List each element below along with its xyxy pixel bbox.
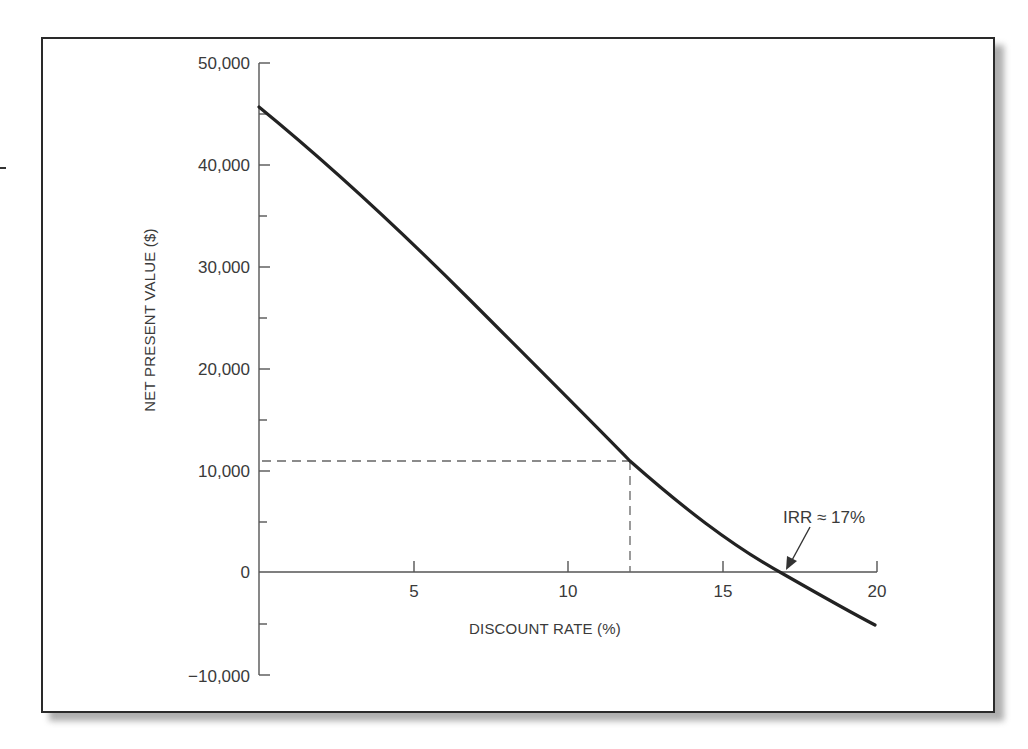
y-tick-40000: 40,000 bbox=[198, 156, 250, 175]
y-tick-50000: 50,000 bbox=[198, 54, 250, 73]
x-axis-title: DISCOUNT RATE (%) bbox=[469, 620, 621, 637]
npv-chart: IRR ≈ 17% 50,000 40,000 30,000 20,000 10… bbox=[0, 0, 1028, 749]
irr-annotation: IRR ≈ 17% bbox=[783, 508, 865, 527]
y-tick-neg10000: −10,000 bbox=[188, 667, 250, 686]
y-tick-labels: 50,000 40,000 30,000 20,000 10,000 0 −10… bbox=[188, 54, 250, 686]
x-tick-15: 15 bbox=[714, 582, 733, 601]
y-tick-0: 0 bbox=[241, 563, 250, 582]
x-tick-5: 5 bbox=[409, 582, 418, 601]
y-axis-title: NET PRESENT VALUE ($) bbox=[141, 228, 158, 411]
dashed-guides bbox=[262, 461, 630, 572]
y-tick-20000: 20,000 bbox=[198, 360, 250, 379]
x-tick-20: 20 bbox=[868, 582, 887, 601]
y-tick-10000: 10,000 bbox=[198, 462, 250, 481]
x-axis bbox=[259, 561, 877, 572]
y-tick-30000: 30,000 bbox=[198, 258, 250, 277]
irr-arrow bbox=[786, 527, 810, 570]
x-tick-10: 10 bbox=[559, 582, 578, 601]
y-axis bbox=[259, 63, 270, 675]
npv-curve bbox=[259, 107, 875, 625]
